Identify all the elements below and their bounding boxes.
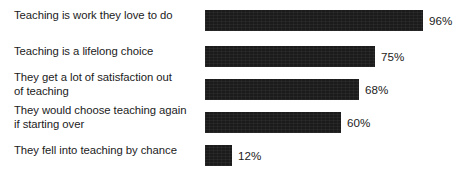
bar <box>205 112 341 133</box>
chart-row: They would choose teaching again if star… <box>0 102 469 135</box>
bar <box>205 79 359 100</box>
bar-value-label: 68% <box>365 82 388 97</box>
horizontal-bar-chart: Teaching is work they love to do 96% Tea… <box>0 0 469 181</box>
chart-row: They get a lot of satisfaction out of te… <box>0 69 469 102</box>
bar-track: 12% <box>205 145 455 166</box>
bar-track: 75% <box>205 46 455 67</box>
bar-category-label: They would choose teaching again if star… <box>14 104 200 131</box>
bar-value-label: 75% <box>381 49 404 64</box>
chart-row: Teaching is work they love to do 96% <box>0 0 469 33</box>
bar <box>205 46 375 67</box>
bar-value-label: 60% <box>347 115 370 130</box>
bar-track: 96% <box>205 10 455 31</box>
chart-row: Teaching is a lifelong choice 75% <box>0 36 469 69</box>
bar-category-label: They fell into teaching by chance <box>14 144 200 158</box>
bar-category-label: Teaching is a lifelong choice <box>14 45 200 59</box>
chart-row: They fell into teaching by chance 12% <box>0 135 469 168</box>
bar-value-label: 96% <box>429 13 452 28</box>
bar-category-label: Teaching is work they love to do <box>14 9 200 23</box>
bar-track: 68% <box>205 79 455 100</box>
bar <box>205 145 232 166</box>
bar-value-label: 12% <box>238 148 261 163</box>
bar <box>205 10 423 31</box>
bar-track: 60% <box>205 112 455 133</box>
bar-category-label: They get a lot of satisfaction out of te… <box>14 71 200 98</box>
